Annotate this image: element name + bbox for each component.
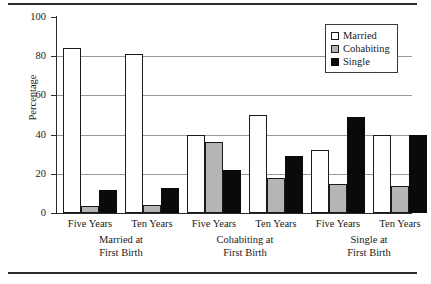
x-axis-panel-label: Married atFirst Birth: [61, 234, 181, 259]
bar-cohabiting-group-1: [143, 205, 161, 213]
bar-single-group-4: [347, 117, 365, 213]
bar-married-group-4: [311, 150, 329, 213]
legend-swatch-icon-single: [331, 58, 339, 66]
x-axis-panel-label: Single atFirst Birth: [309, 234, 429, 259]
y-axis-tick-label: 0: [16, 208, 46, 218]
bar-cohabiting-group-4: [329, 184, 347, 213]
y-axis-tick: [51, 213, 57, 214]
panel-label-line1: Married at: [61, 234, 181, 247]
y-axis-tick-label: 80: [16, 51, 46, 61]
legend-swatch-icon-cohabiting: [331, 45, 339, 53]
bar-single-group-0: [99, 190, 117, 213]
panel-label-line2: First Birth: [309, 247, 429, 260]
panel-label-line1: Single at: [309, 234, 429, 247]
bar-married-group-3: [249, 115, 267, 213]
panel-label-line2: First Birth: [185, 247, 305, 260]
bar-married-group-5: [373, 135, 391, 213]
bar-single-group-3: [285, 156, 303, 213]
bar-cohabiting-group-5: [391, 186, 409, 213]
legend-label: Cohabiting: [343, 43, 390, 54]
y-axis-tick-label: 20: [16, 169, 46, 179]
bar-cohabiting-group-2: [205, 142, 223, 213]
y-axis-tick-label: 60: [16, 90, 46, 100]
bar-married-group-1: [125, 54, 143, 213]
bar-cohabiting-group-3: [267, 178, 285, 213]
x-axis-group-label: Ten Years: [360, 218, 431, 230]
x-axis-line: [56, 213, 412, 214]
legend-item-cohabiting: Cohabiting: [331, 42, 390, 55]
bar-single-group-1: [161, 188, 179, 213]
y-axis-tick-label: 40: [16, 130, 46, 140]
legend-item-single: Single: [331, 55, 390, 68]
legend-item-married: Married: [331, 29, 390, 42]
bar-single-group-2: [223, 170, 241, 213]
gridline: [57, 95, 412, 96]
y-axis-tick-label: 100: [16, 12, 46, 22]
bar-married-group-0: [63, 48, 81, 213]
top-rule: [8, 3, 417, 5]
legend-label: Married: [343, 30, 377, 41]
panel-label-line1: Cohabiting at: [185, 234, 305, 247]
bottom-rule: [8, 272, 417, 274]
panel-label-line2: First Birth: [61, 247, 181, 260]
legend-swatch-icon-married: [331, 32, 339, 40]
x-axis-panel-label: Cohabiting atFirst Birth: [185, 234, 305, 259]
legend-label: Single: [343, 56, 370, 67]
bar-cohabiting-group-0: [81, 206, 99, 213]
bar-married-group-2: [187, 135, 205, 213]
legend: MarriedCohabitingSingle: [325, 24, 398, 73]
bar-single-group-5: [409, 135, 427, 213]
